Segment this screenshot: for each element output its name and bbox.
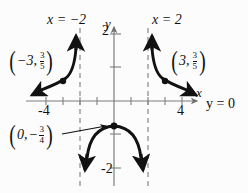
fraction-denominator: 4 [39,135,44,145]
horizontal-asymptote-label: y = 0 [206,97,235,111]
fraction-minus-sign: − [30,127,39,143]
middle-branch-right-down-arrow [141,154,143,170]
fraction-denominator: 5 [193,61,198,71]
paren-open: ( [171,50,177,72]
asymptote-label-right: x = 2 [152,13,182,27]
x-tick-label-4: 4 [177,104,184,118]
point-dot-right [162,78,168,84]
paren-close: ) [46,124,52,146]
paren-close: ) [199,50,205,72]
paren-open: ( [9,124,15,146]
y-tick-label-2: 2 [102,24,109,38]
point-x-value: −3 [17,53,33,69]
paren-open: ( [9,50,15,72]
fraction-numerator: 3 [193,51,198,60]
fraction-numerator: 3 [39,125,44,134]
x-axis-label: x [196,86,202,99]
x-tick-label-minus4: -4 [38,104,50,118]
fraction-denominator: 5 [40,61,45,71]
asymptote-label-left: x = −2 [47,13,86,27]
point-dot-vertex [111,123,118,130]
point-dot-left [60,78,66,84]
middle-branch-left-down-arrow [85,154,87,170]
paren-close: ) [47,50,53,72]
point-label-vertex: ( 0 , − 3 4 ) [8,124,54,146]
point-x-value: 3 [179,53,186,69]
rational-function-graph-figure: x = −2 x = 2 y x y = 0 2 -2 -4 4 ( −3 , … [0,0,248,193]
fraction-numerator: 3 [40,51,45,60]
point-label-right: ( 3 , 3 5 ) [170,50,207,72]
point-y-fraction: 3 5 [39,51,46,71]
point-label-left: ( −3 , 3 5 ) [8,50,54,72]
point-y-fraction: 3 5 [192,51,199,71]
point-y-fraction: 3 4 [38,125,45,145]
y-tick-label-minus2: -2 [101,162,113,176]
point-x-value: 0 [17,127,24,143]
